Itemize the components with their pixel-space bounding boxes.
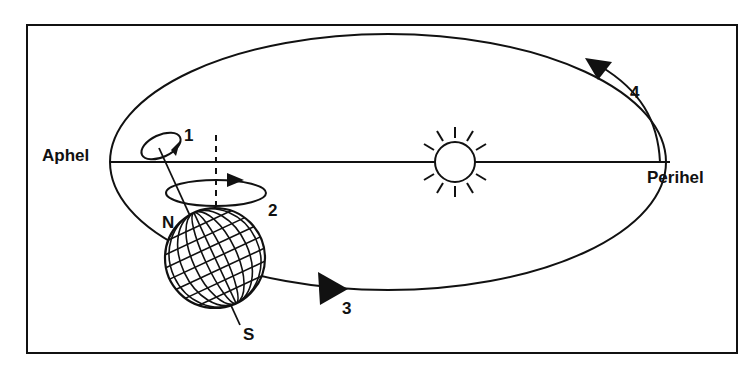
label-1: 1	[184, 126, 193, 145]
diagram-frame	[27, 25, 737, 353]
label-aphel: Aphel	[42, 146, 89, 165]
label-4: 4	[630, 83, 640, 102]
label-north: N	[162, 213, 174, 232]
precession-ellipse-1	[137, 127, 184, 165]
earth-globe	[149, 192, 282, 325]
orbit-diagram: Aphel Perihel N S 1 2 3 4	[0, 0, 756, 382]
label-perihel: Perihel	[647, 168, 704, 187]
arrow-4	[585, 58, 660, 162]
label-3: 3	[342, 299, 351, 318]
label-south: S	[243, 325, 254, 344]
sun-icon	[420, 127, 490, 197]
label-2: 2	[268, 201, 277, 220]
